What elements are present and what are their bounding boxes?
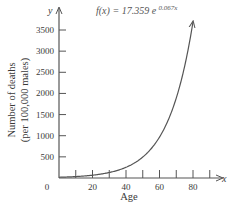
labels-group: 020406080500100015002000250030003500 [36, 25, 198, 192]
y-tick-label: 2500 [36, 67, 55, 77]
x-tick-label: 20 [88, 182, 98, 192]
formula-label: f(x) = 17.359 e 0.067x [96, 4, 178, 17]
y-tick-label: 3000 [36, 46, 55, 56]
curve-group [59, 22, 193, 177]
y-tick-label: 1000 [36, 131, 55, 141]
exponential-curve [59, 22, 193, 177]
x-axis-title: Age [120, 191, 138, 202]
formula-base: e [152, 5, 157, 16]
x-tick-label: 80 [189, 182, 199, 192]
x-tick-label: 0 [45, 182, 50, 192]
y-tick-label: 2000 [36, 88, 55, 98]
y-axis-title-line2: (per 100,000 males) [19, 57, 31, 142]
y-tick-label: 3500 [36, 25, 55, 35]
x-tick-label: 60 [155, 182, 165, 192]
formula-prefix: f(x) = 17.359 [96, 5, 149, 17]
y-tick-label: 1500 [36, 110, 55, 120]
x-axis-var: x [221, 173, 227, 184]
y-axis-title-line1: Number of deaths [6, 62, 17, 137]
exponential-chart: 020406080500100015002000250030003500 Num… [0, 0, 234, 204]
formula-exponent: 0.067x [159, 4, 179, 12]
axes-group [59, 8, 222, 178]
y-tick-label: 500 [41, 152, 55, 162]
y-axis-var: y [47, 5, 53, 16]
